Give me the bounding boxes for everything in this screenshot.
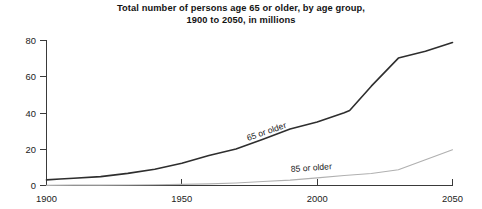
series-line-85-or-older (47, 150, 453, 186)
x-tick-label-1950: 1950 (171, 193, 192, 204)
y-tick-label-20: 20 (26, 144, 36, 155)
y-tick-label-80: 80 (26, 35, 36, 46)
x-tick-label-2000: 2000 (307, 193, 328, 204)
series-label-85-or-older: 85 or older (290, 161, 332, 174)
line-chart-plot: 0 20 40 60 80 1900 1950 2000 2050 65 or … (0, 0, 482, 209)
y-tick-label-0: 0 (31, 180, 36, 191)
y-tick-label-60: 60 (26, 71, 36, 82)
x-tick-label-1900: 1900 (36, 193, 57, 204)
series-line-65-or-older (47, 42, 453, 179)
series-label-65-or-older: 65 or older (245, 120, 287, 143)
chart-figure: Total number of persons age 65 or older,… (0, 0, 482, 209)
x-tick-label-2050: 2050 (442, 193, 463, 204)
y-tick-label-40: 40 (26, 108, 36, 119)
